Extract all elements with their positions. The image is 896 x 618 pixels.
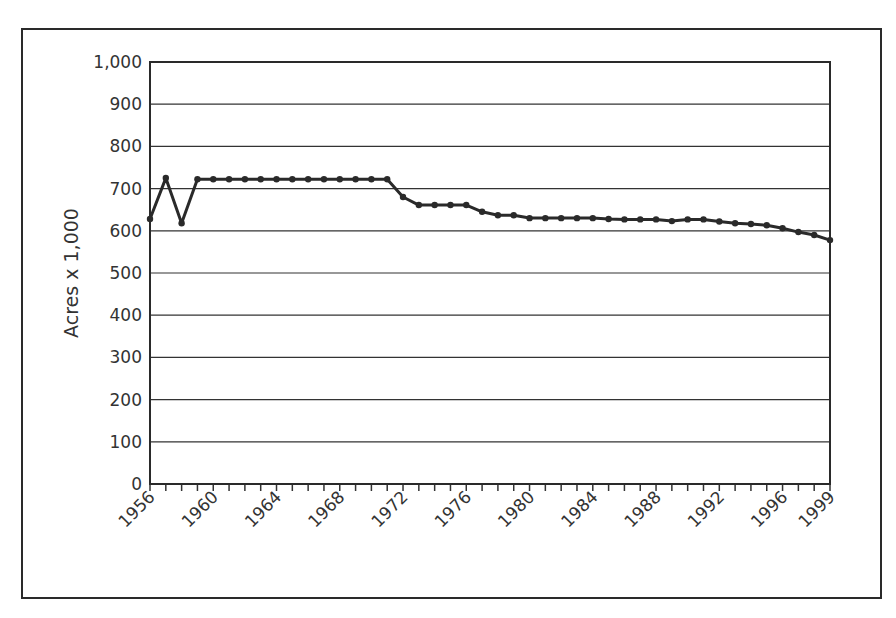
data-point: [779, 225, 785, 231]
data-point: [147, 216, 153, 222]
x-axis-tick-labels: 1956196019641968197219761980198419881992…: [114, 487, 839, 532]
data-point: [400, 194, 406, 200]
data-point: [748, 221, 754, 227]
data-point: [163, 175, 169, 181]
data-point: [732, 220, 738, 226]
data-point: [305, 176, 311, 182]
data-point: [178, 220, 184, 226]
x-tick-label: 1992: [683, 487, 728, 532]
data-point: [210, 176, 216, 182]
data-point: [337, 176, 343, 182]
y-tick-label: 500: [110, 263, 142, 283]
data-point: [511, 212, 517, 218]
data-point: [384, 176, 390, 182]
data-point: [827, 237, 833, 243]
data-point: [574, 215, 580, 221]
data-point: [226, 176, 232, 182]
y-tick-label: 800: [110, 136, 142, 156]
data-point: [289, 176, 295, 182]
x-tick-label: 1976: [430, 487, 475, 532]
x-tick-label: 1988: [620, 487, 665, 532]
data-point: [700, 216, 706, 222]
x-tick-label: 1999: [794, 487, 839, 532]
y-tick-label: 700: [110, 179, 142, 199]
x-tick-label: 1972: [367, 487, 412, 532]
x-tick-label: 1968: [304, 487, 349, 532]
x-tick-label: 1960: [177, 487, 222, 532]
y-tick-label: 1,000: [93, 52, 142, 72]
data-point: [764, 222, 770, 228]
y-tick-label: 100: [110, 432, 142, 452]
y-tick-label: 600: [110, 221, 142, 241]
data-point: [194, 176, 200, 182]
data-point: [542, 215, 548, 221]
data-point: [416, 202, 422, 208]
y-tick-label: 900: [110, 94, 142, 114]
line-chart: 01002003004005006007008009001,000 195619…: [0, 0, 896, 618]
data-point: [273, 176, 279, 182]
data-point: [257, 176, 263, 182]
data-point: [684, 216, 690, 222]
data-point: [352, 176, 358, 182]
data-point: [447, 202, 453, 208]
data-point: [558, 215, 564, 221]
data-point: [495, 212, 501, 218]
y-tick-label: 200: [110, 390, 142, 410]
data-point: [605, 216, 611, 222]
data-point: [621, 216, 627, 222]
data-point: [526, 215, 532, 221]
data-point: [242, 176, 248, 182]
data-point: [463, 202, 469, 208]
y-axis-tick-labels: 01002003004005006007008009001,000: [93, 52, 142, 494]
y-axis-title: Acres x 1,000: [60, 208, 82, 338]
x-tick-label: 1964: [241, 487, 286, 532]
x-tick-label: 1996: [747, 487, 792, 532]
data-point: [479, 209, 485, 215]
x-tick-label: 1980: [494, 487, 539, 532]
data-point: [653, 216, 659, 222]
data-point-markers: [147, 175, 833, 243]
y-tick-label: 400: [110, 305, 142, 325]
data-point: [811, 232, 817, 238]
x-tick-label: 1984: [557, 487, 602, 532]
data-point: [321, 176, 327, 182]
data-point: [637, 216, 643, 222]
gridlines: [150, 104, 830, 442]
data-point: [716, 218, 722, 224]
x-axis-minor-ticks: [150, 484, 830, 491]
y-tick-label: 300: [110, 347, 142, 367]
data-point: [669, 218, 675, 224]
data-point: [795, 229, 801, 235]
data-point: [590, 215, 596, 221]
data-point: [368, 176, 374, 182]
data-point: [431, 202, 437, 208]
